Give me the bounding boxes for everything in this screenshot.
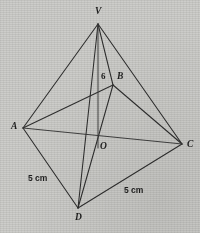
edge-a-d [23, 128, 78, 208]
vertex-label-c: C [187, 140, 193, 150]
vertex-label-v: V [95, 7, 101, 17]
measure-label-height: 6 [101, 72, 106, 81]
edge-v-a [23, 24, 98, 128]
measure-label-edge-ad: 5 cm [28, 174, 47, 183]
geometry-figure-page: V B A C O D 6 5 cm 5 cm [0, 0, 200, 233]
vertex-label-d: D [75, 213, 82, 223]
vertex-label-b: B [117, 72, 123, 82]
edge-v-c [98, 24, 182, 144]
measure-label-edge-dc: 5 cm [124, 186, 143, 195]
edge-v-d [78, 24, 98, 208]
vertex-label-a: A [11, 122, 17, 132]
geometry-figure-canvas [0, 0, 200, 233]
edge-a-b [23, 85, 113, 128]
vertex-label-o: O [100, 142, 107, 152]
